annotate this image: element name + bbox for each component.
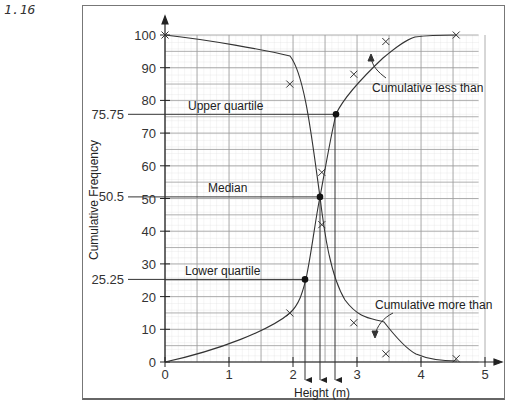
median-dot xyxy=(317,194,324,201)
median-value-label: 50.5 xyxy=(99,189,124,204)
x-tick-label: 1 xyxy=(225,367,232,382)
cumulative-frequency-chart: 0102030405060708090100 012345 75.75 50.5… xyxy=(0,0,514,407)
y-tick-label: 70 xyxy=(142,126,156,141)
y-axis-arrow-icon xyxy=(162,16,168,24)
x-tick-label: 5 xyxy=(481,367,488,382)
y-tick-label: 50 xyxy=(142,192,156,207)
upper-quartile-label: Upper quartile xyxy=(188,99,264,113)
lower-quartile-label: Lower quartile xyxy=(185,264,261,278)
y-tick-label: 40 xyxy=(142,224,156,239)
y-tick-label: 100 xyxy=(134,28,156,43)
y-tick-label: 0 xyxy=(149,355,156,370)
x-tick-label: 3 xyxy=(353,367,360,382)
y-axis-title: Cumulative Frequency xyxy=(87,140,101,260)
less-than-label: Cumulative less than xyxy=(372,81,483,95)
y-tick-label: 60 xyxy=(142,159,156,174)
lower-quartile-dot xyxy=(302,276,309,283)
y-tick-label: 30 xyxy=(142,257,156,272)
y-tick-label: 20 xyxy=(142,290,156,305)
x-tick-label: 0 xyxy=(161,367,168,382)
more-than-label: Cumulative more than xyxy=(375,298,492,312)
y-tick-label: 80 xyxy=(142,93,156,108)
y-tick-label: 10 xyxy=(142,322,156,337)
x-tick-label: 2 xyxy=(289,367,296,382)
lq-value-label: 25.25 xyxy=(91,272,124,287)
x-tick-label: 4 xyxy=(417,367,424,382)
x-axis-arrow-icon xyxy=(494,359,502,365)
uq-value-label: 75.75 xyxy=(91,107,124,122)
y-tick-label: 90 xyxy=(142,61,156,76)
x-axis-title: Height (m) xyxy=(294,386,350,400)
upper-quartile-dot xyxy=(333,111,340,118)
median-label: Median xyxy=(208,181,247,195)
